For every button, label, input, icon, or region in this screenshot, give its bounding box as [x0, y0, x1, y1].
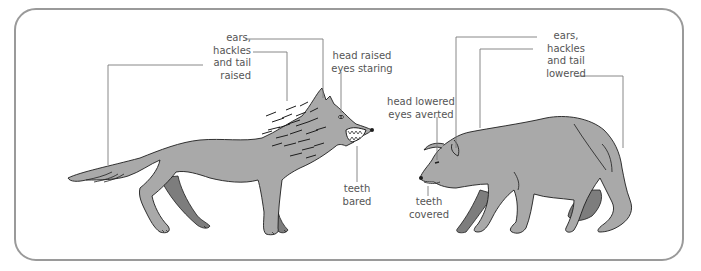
- dominant-wolf-far-hind-leg: [160, 176, 210, 228]
- dominant-wolf-nose: [370, 128, 374, 132]
- dominant-wolf-teeth: [346, 128, 366, 142]
- dominant-wolf-head-label: head raised eyes staring: [326, 50, 398, 75]
- dominant-wolf-body: [68, 88, 372, 235]
- submissive-wolf-nose: [419, 176, 423, 180]
- dominant-wolf: [68, 88, 374, 235]
- dominant-wolf-posture-label: ears, hackles and tail raised: [195, 32, 251, 82]
- submissive-wolf-posture-label: ears, hackles and tail lowered: [534, 30, 598, 80]
- submissive-wolf-teeth-label: teeth covered: [406, 196, 452, 221]
- submissive-wolf-eye: [435, 162, 439, 163]
- submissive-wolf-head-label: head lowered eyes averted: [381, 96, 461, 121]
- dominant-wolf-teeth-label: teeth bared: [335, 183, 379, 208]
